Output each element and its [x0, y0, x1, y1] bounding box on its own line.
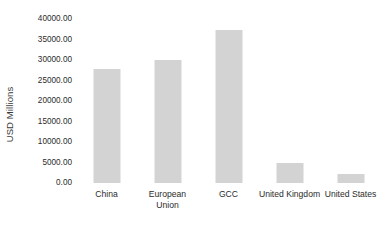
x-axis-category-labels: ChinaEuropean UnionGCCUnited KingdomUnit… — [76, 189, 381, 229]
x-axis-category-label: GCC — [198, 189, 260, 200]
x-axis-category-label: United Kingdom — [259, 189, 321, 200]
y-axis-tick-label: 35000.00 — [16, 35, 72, 43]
bar[interactable] — [154, 60, 181, 183]
bar-slot — [259, 19, 320, 183]
y-axis-tick-labels: 0.005000.0010000.0015000.0020000.0025000… — [16, 0, 72, 229]
bar-slot — [320, 19, 381, 183]
y-axis-tick-label: 10000.00 — [16, 138, 72, 146]
bar-slot — [198, 19, 259, 183]
y-axis-tick-label: 20000.00 — [16, 97, 72, 105]
bar-chart: USD Millions 0.005000.0010000.0015000.00… — [0, 0, 385, 229]
bar[interactable] — [93, 69, 120, 183]
plot-area — [76, 19, 381, 183]
bar-slot — [137, 19, 198, 183]
y-axis-tick-label: 0.00 — [16, 179, 72, 187]
y-axis-tick-label: 25000.00 — [16, 76, 72, 84]
x-axis-category-label: China — [76, 189, 138, 200]
bar[interactable] — [337, 174, 364, 183]
y-axis-tick-label: 15000.00 — [16, 117, 72, 125]
x-axis-category-label: European Union — [137, 189, 199, 210]
y-axis-tick-label: 40000.00 — [16, 15, 72, 23]
y-axis-tick-label: 30000.00 — [16, 56, 72, 64]
bar[interactable] — [215, 30, 242, 183]
bar-slot — [76, 19, 137, 183]
y-axis-tick-label: 5000.00 — [16, 158, 72, 166]
y-axis-title-text: USD Millions — [5, 87, 16, 143]
x-axis-category-label: United States — [320, 189, 382, 200]
bar[interactable] — [276, 163, 303, 183]
